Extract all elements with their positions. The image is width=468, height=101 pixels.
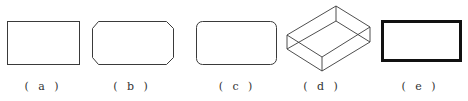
shape-d-isometric-box — [287, 6, 370, 71]
label-d: ( d ) — [303, 80, 341, 93]
shape-c-rounded-rectangle — [197, 22, 277, 65]
shape-b-chamfered-rectangle — [93, 22, 174, 65]
label-c: ( c ) — [219, 80, 256, 93]
label-b: ( b ) — [113, 80, 151, 93]
label-a: ( a ) — [24, 80, 61, 93]
shape-a-rectangle — [8, 22, 80, 65]
shape-e-thick-rectangle — [383, 22, 461, 61]
label-e: ( e ) — [401, 80, 438, 93]
